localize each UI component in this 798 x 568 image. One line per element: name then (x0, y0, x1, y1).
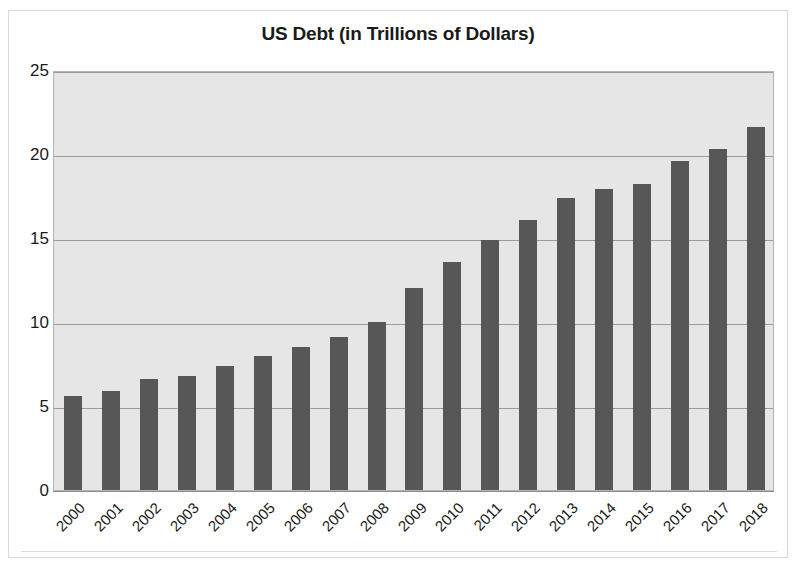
gridline-y (54, 156, 773, 157)
bar (709, 149, 727, 490)
bar (254, 356, 272, 490)
bar (140, 379, 158, 490)
bottom-divider (21, 551, 777, 552)
bar (595, 189, 613, 490)
bar (633, 184, 651, 490)
bar (102, 391, 120, 490)
y-axis-tick-label: 0 (11, 481, 49, 501)
y-axis-tick-label: 10 (11, 313, 49, 333)
y-axis-tick-label: 5 (11, 397, 49, 417)
bar (292, 347, 310, 490)
bar (443, 262, 461, 490)
x-axis-baseline (53, 491, 774, 492)
bar (405, 288, 423, 490)
gridline-y (54, 72, 773, 73)
bar (330, 337, 348, 490)
x-axis: 2000200120022003200420052006200720082009… (53, 493, 774, 559)
y-axis-tick-label: 15 (11, 229, 49, 249)
bar (481, 240, 499, 490)
bar (368, 322, 386, 490)
bar (747, 127, 765, 490)
y-axis: 0510152025 (9, 71, 49, 491)
gridline-y (54, 240, 773, 241)
chart-title: US Debt (in Trillions of Dollars) (9, 23, 787, 45)
bar (216, 366, 234, 490)
bar (519, 220, 537, 490)
y-axis-tick-label: 20 (11, 145, 49, 165)
y-axis-tick-label: 25 (11, 61, 49, 81)
bar (64, 396, 82, 490)
bar (178, 376, 196, 490)
chart-frame: US Debt (in Trillions of Dollars) 051015… (8, 10, 788, 558)
bar (671, 161, 689, 490)
plot-area (53, 71, 774, 491)
bar (557, 198, 575, 490)
